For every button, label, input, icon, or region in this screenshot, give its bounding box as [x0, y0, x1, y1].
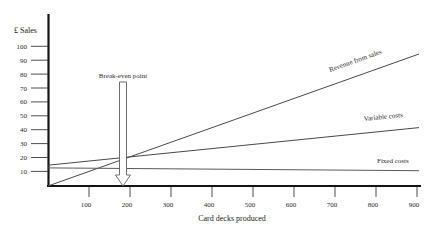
- y-tick-label: 40: [20, 126, 28, 134]
- x-tick-label: 400: [204, 201, 215, 209]
- x-tick-label: 800: [368, 201, 379, 209]
- x-tick-label: 500: [245, 201, 256, 209]
- x-tick-label: 700: [327, 201, 338, 209]
- y-tick-label: 50: [20, 112, 28, 120]
- x-tick-label: 100: [81, 201, 92, 209]
- x-tick-label: 900: [409, 201, 420, 209]
- x-axis-tick-labels: 100 200 300 400 500 600 700 800 900: [81, 201, 420, 209]
- x-tick-label: 300: [163, 201, 174, 209]
- y-tick-label: 90: [20, 57, 28, 65]
- y-tick-label: 100: [17, 43, 28, 51]
- y-tick-label: 10: [20, 168, 28, 176]
- y-tick-label: 30: [20, 140, 28, 148]
- series-label-fixed-costs: Fixed costs: [377, 157, 409, 165]
- y-tick-label: 60: [20, 98, 28, 106]
- y-tick-label: 20: [20, 154, 28, 162]
- breakeven-chart: 100 90 80 70 60 50 40 30 20 10 100 200: [0, 0, 436, 240]
- y-axis-title: £ Sales: [14, 26, 37, 35]
- y-tick-label: 70: [20, 85, 28, 93]
- break-even-label: Break-even point: [99, 72, 147, 80]
- x-tick-label: 600: [286, 201, 297, 209]
- y-tick-label: 80: [20, 71, 28, 79]
- x-axis-title: Card decks produced: [198, 214, 266, 223]
- x-tick-label: 200: [122, 201, 133, 209]
